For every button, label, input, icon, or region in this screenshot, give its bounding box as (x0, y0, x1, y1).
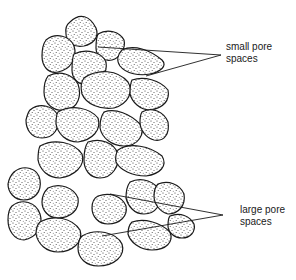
sediment-grain (36, 218, 81, 252)
sediment-grain (26, 106, 58, 138)
sediment-grain (56, 108, 99, 142)
sediment-grain (38, 142, 83, 178)
sediment-grain (84, 141, 118, 179)
sediment-grain (168, 214, 194, 238)
sediment-grain (42, 186, 78, 218)
sediment-grain (100, 111, 142, 146)
label-large-line1: large pore (240, 204, 285, 216)
sediment-grain (154, 182, 184, 214)
sediment-grain (78, 232, 123, 266)
label-large-pore-spaces: large pore spaces (240, 204, 285, 228)
sediment-grain (42, 36, 75, 73)
sediment-grain (118, 48, 164, 75)
sediment-grain (44, 73, 80, 110)
sediment-grain (92, 194, 126, 224)
label-large-line2: spaces (240, 216, 285, 228)
sediment-grain (8, 168, 40, 200)
label-small-line1: small pore (226, 41, 272, 53)
label-small-line2: spaces (226, 53, 272, 65)
sediment-grain (140, 110, 168, 141)
sediment-grain (81, 72, 130, 109)
label-small-pore-spaces: small pore spaces (226, 41, 272, 65)
sediment-grain (130, 78, 168, 110)
sediment-grain (116, 146, 164, 176)
